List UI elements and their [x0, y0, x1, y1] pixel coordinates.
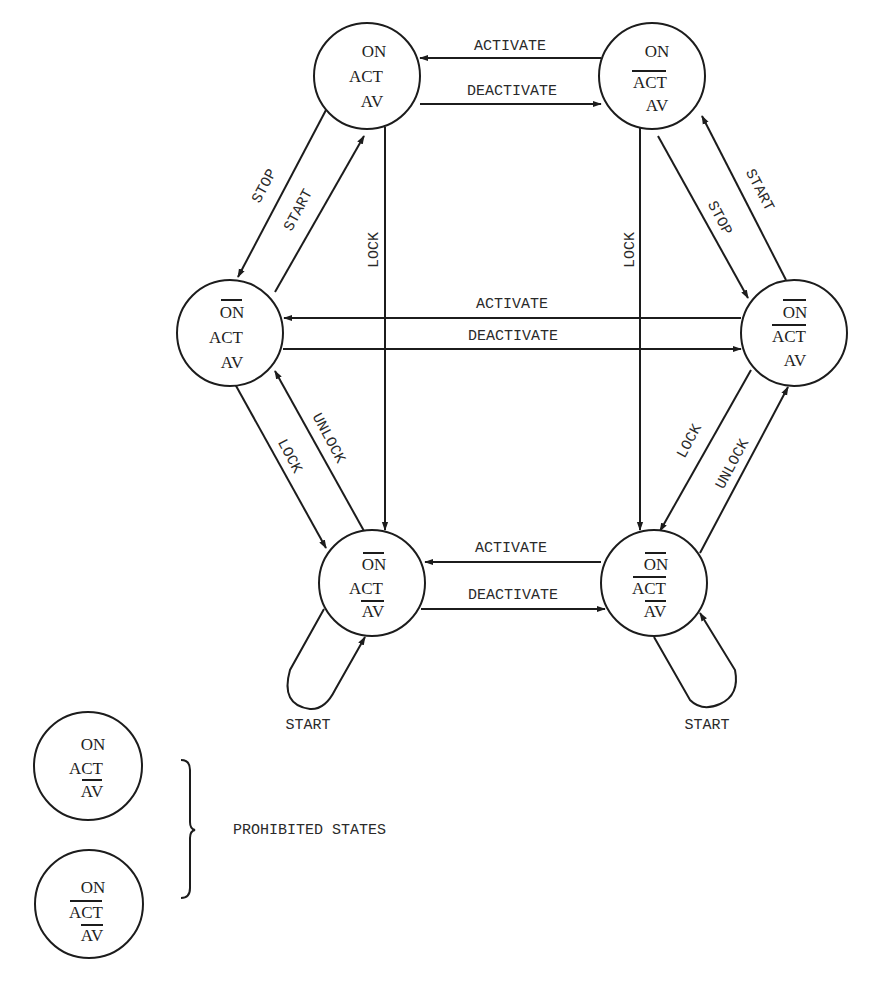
state-label-av: AV [784, 351, 807, 370]
label-lock-vertical-right: LOCK [622, 232, 639, 268]
state-noton-act-av: ON ACT AV [177, 280, 283, 386]
state-label-act: ACT [633, 73, 668, 92]
state-label-on: ON [362, 555, 387, 574]
label-deactivate-bottom: DEACTIVATE [468, 587, 558, 604]
edge-lock-left [235, 384, 326, 548]
label-prohibited-states: PROHIBITED STATES [233, 822, 386, 839]
label-deactivate-top: DEACTIVATE [467, 83, 557, 100]
label-start-loop-left: START [285, 717, 330, 734]
state-on-act-av: ON ACT AV [314, 23, 420, 129]
label-activate-middle: ACTIVATE [476, 296, 548, 313]
state-noton-act-notav: ON ACT AV [319, 530, 425, 636]
state-label-av: AV [221, 353, 244, 372]
state-label-av: AV [646, 96, 669, 115]
state-label-act: ACT [349, 67, 384, 86]
state-label-on: ON [220, 303, 245, 322]
edge-unlock-right [700, 387, 788, 553]
label-activate-top: ACTIVATE [474, 38, 546, 55]
state-noton-notact-av: ON ACT AV [741, 280, 847, 386]
state-label-act: ACT [632, 579, 667, 598]
state-label-act: ACT [349, 579, 384, 598]
state-label-av: AV [81, 782, 104, 801]
label-unlock-left: UNLOCK [308, 411, 348, 467]
label-stop-left: STOP [249, 166, 281, 206]
label-lock-right: LOCK [674, 421, 706, 461]
state-label-act: ACT [209, 328, 244, 347]
edge-stop-right [658, 136, 748, 298]
label-activate-bottom: ACTIVATE [475, 540, 547, 557]
label-start-right: START [741, 166, 777, 214]
state-label-act: ACT [69, 759, 104, 778]
prohibited-state-on-act-notav: ON ACT AV [34, 712, 142, 820]
state-label-act: ACT [772, 327, 807, 346]
prohibited-state-on-notact-notav: ON ACT AV [35, 850, 143, 958]
state-label-av: AV [81, 926, 104, 945]
state-label-on: ON [783, 303, 808, 322]
state-noton-notact-notav: ON ACT AV [601, 530, 707, 636]
state-label-av: AV [644, 602, 667, 621]
label-deactivate-middle: DEACTIVATE [468, 328, 558, 345]
state-label-on: ON [81, 878, 106, 897]
state-on-notact-av: ON ACT AV [599, 23, 705, 129]
state-label-act: ACT [69, 903, 104, 922]
state-label-on: ON [362, 42, 387, 61]
state-diagram: ACTIVATE DEACTIVATE STOP START STOP STAR… [0, 0, 877, 992]
label-stop-right: STOP [703, 198, 735, 238]
brace-icon [181, 760, 195, 898]
label-lock-vertical-left: LOCK [366, 232, 383, 268]
label-start-loop-right: START [684, 717, 729, 734]
state-label-av: AV [361, 92, 384, 111]
state-label-on: ON [81, 735, 106, 754]
state-label-on: ON [645, 42, 670, 61]
label-lock-left: LOCK [273, 436, 305, 476]
state-label-av: AV [362, 602, 385, 621]
state-label-on: ON [644, 555, 669, 574]
